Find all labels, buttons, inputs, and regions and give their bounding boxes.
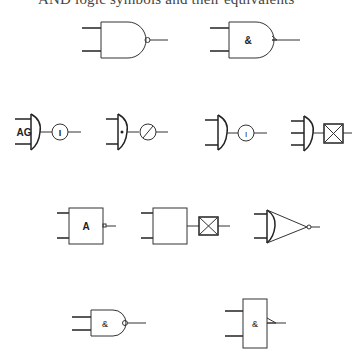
iec-nand-symbol: &	[225, 299, 286, 348]
i-label: I	[245, 130, 247, 139]
rect-a-nand-symbol: A	[57, 208, 116, 244]
inversion-bubble-icon	[307, 225, 311, 229]
rect-crossbox-symbol	[141, 208, 230, 244]
ag-label: AG	[17, 127, 32, 138]
negation-triangle-icon	[272, 36, 277, 40]
nand-gate-amp-symbol: &	[210, 22, 300, 58]
inversion-bubble-icon	[123, 321, 128, 326]
negation-triangle-icon	[267, 318, 276, 323]
and-inverter-symbol: I	[205, 115, 267, 150]
amp-label: &	[244, 35, 251, 46]
dot-icon	[121, 131, 124, 134]
amp-label: &	[102, 319, 108, 329]
and3-crossbox-symbol	[291, 116, 352, 151]
and-ag-inverter-symbol: AG I	[15, 114, 81, 150]
amp-label: &	[252, 319, 258, 329]
negation-square-icon	[103, 224, 106, 227]
i-label: I	[59, 128, 62, 138]
a-label: A	[82, 221, 89, 232]
or-triangle-inverter-symbol	[254, 210, 320, 243]
and-dot-slash-symbol	[106, 114, 168, 150]
nand-amp-small-symbol: &	[72, 310, 146, 336]
nand-gate-symbol	[82, 22, 168, 58]
